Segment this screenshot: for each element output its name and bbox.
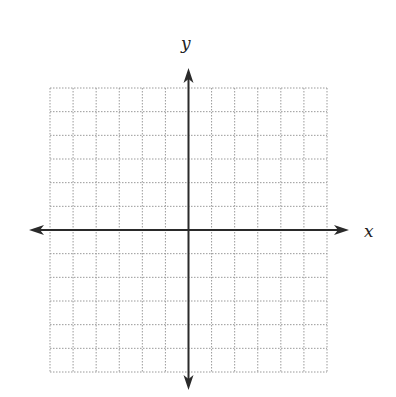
coordinate-plane: x y [0,0,396,397]
y-axis-label: y [180,33,191,53]
x-axis-label: x [364,221,374,241]
axes [29,68,349,390]
